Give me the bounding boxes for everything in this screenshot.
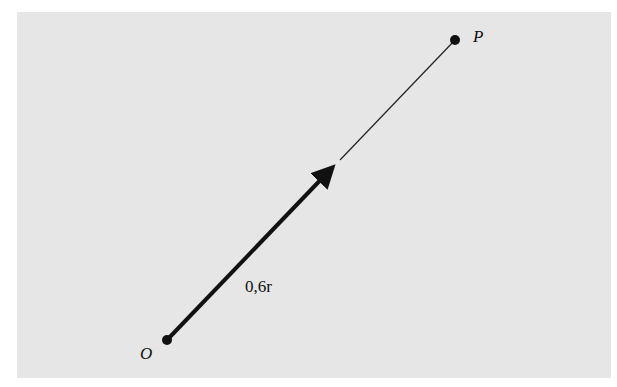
point-o-dot bbox=[162, 335, 172, 345]
point-p-dot bbox=[450, 35, 460, 45]
vector-diagram: O P 0,6r bbox=[0, 0, 617, 387]
point-o-label: O bbox=[140, 344, 152, 363]
line-op bbox=[340, 40, 455, 160]
vector-label: 0,6r bbox=[245, 277, 272, 296]
vector-arrow bbox=[167, 170, 330, 340]
point-p-label: P bbox=[472, 27, 483, 46]
